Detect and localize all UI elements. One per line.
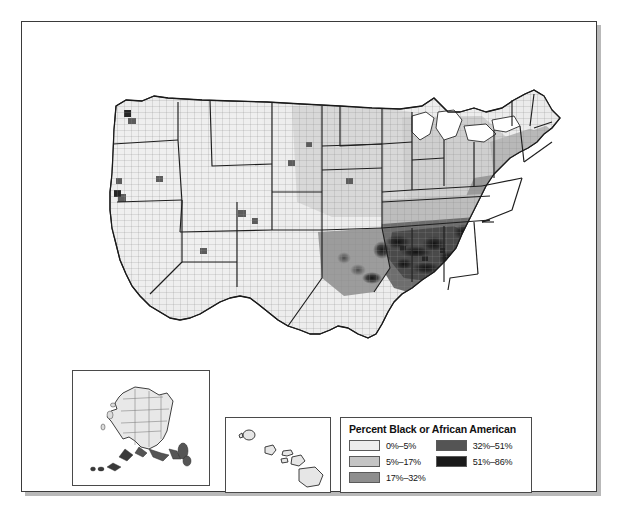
hawaii-choropleth [229, 421, 329, 491]
legend-swatch-32-51 [436, 440, 467, 451]
page-bottom-margin [0, 498, 618, 508]
hawaii-islands [239, 430, 323, 487]
legend-label-5-17: 5%–17% [386, 457, 421, 467]
legend-title: Percent Black or African American [349, 423, 524, 435]
alaska-choropleth [77, 375, 207, 483]
legend-spacer [436, 471, 513, 484]
legend-column-left: 0%–5% 5%–17% 17%–32% [349, 439, 426, 484]
map-legend: Percent Black or African American 0%–5% … [340, 417, 532, 493]
contiguous-us-choropleth [82, 82, 582, 382]
hawaii-inset-box [225, 417, 331, 493]
legend-swatch-17-32 [349, 472, 380, 483]
page-frame: Percent Black or African American 0%–5% … [21, 21, 597, 492]
legend-item: 51%–86% [436, 455, 513, 468]
legend-label-32-51: 32%–51% [473, 441, 513, 451]
legend-item: 0%–5% [349, 439, 426, 452]
figure-page: Percent Black or African American 0%–5% … [0, 0, 618, 508]
legend-swatch-51-86 [436, 456, 467, 467]
legend-columns: 0%–5% 5%–17% 17%–32% 32%–51% [349, 439, 524, 484]
legend-label-0-5: 0%–5% [386, 441, 416, 451]
legend-column-right: 32%–51% 51%–86% [436, 439, 513, 484]
class-region-florida [448, 274, 488, 338]
alaska-land [91, 387, 192, 471]
legend-label-17-32: 17%–32% [386, 473, 426, 483]
legend-item: 32%–51% [436, 439, 513, 452]
legend-item: 5%–17% [349, 455, 426, 468]
legend-item: 17%–32% [349, 471, 426, 484]
legend-swatch-0-5 [349, 440, 380, 451]
legend-swatch-5-17 [349, 456, 380, 467]
legend-label-51-86: 51%–86% [473, 457, 513, 467]
alaska-inset-box [72, 370, 210, 486]
